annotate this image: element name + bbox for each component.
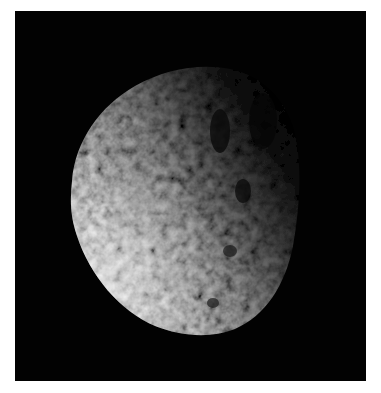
photo-frame bbox=[15, 11, 366, 381]
moon-body bbox=[55, 51, 315, 351]
moon-image bbox=[15, 11, 366, 381]
